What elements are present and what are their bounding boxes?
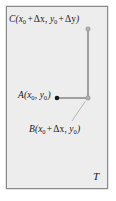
label-a-comma: , — [35, 90, 37, 100]
point-marker-b — [86, 96, 90, 100]
label-point-c: C(x0+Δx, y0+Δy) — [9, 15, 79, 25]
label-b-delta-x: Δx — [53, 124, 64, 134]
label-point-a: A(x0, y0) — [18, 91, 51, 101]
label-c-plus-2: + — [58, 14, 65, 24]
label-c-delta-y: Δy — [65, 14, 76, 24]
label-a-y-sub: 0 — [44, 94, 47, 101]
label-a-close-paren: ) — [48, 90, 51, 100]
label-c-plus-1: + — [26, 14, 33, 24]
label-point-b: B(x0+Δx, y0) — [29, 125, 80, 135]
leader-line-point-b — [72, 101, 86, 121]
label-b-x-sub: 0 — [42, 128, 45, 135]
point-marker-c — [86, 27, 90, 31]
label-c-delta-x: Δx — [34, 14, 45, 24]
figure-canvas: C(x0+Δx, y0+Δy) A(x0, y0) B(x0+Δx, y0) T — [0, 0, 116, 201]
label-c-close-paren: ) — [76, 14, 79, 24]
label-b-comma: , — [64, 124, 66, 134]
label-b-y-sub: 0 — [73, 128, 76, 135]
label-region-t: T — [93, 170, 99, 182]
label-b-close-paren: ) — [77, 124, 80, 134]
label-c-comma: , — [45, 14, 47, 24]
label-c-x-sub: 0 — [23, 18, 26, 25]
point-marker-a — [55, 96, 60, 101]
label-c-y-sub: 0 — [54, 18, 57, 25]
label-a-x-sub: 0 — [31, 94, 34, 101]
